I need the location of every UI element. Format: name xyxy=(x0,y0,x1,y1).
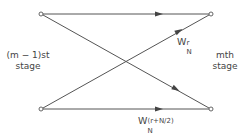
weight-lower-base: W xyxy=(138,115,147,126)
right-stage-line1: mth xyxy=(208,50,242,61)
left-stage-line1: (m − 1)st xyxy=(6,50,50,61)
arrow-icon xyxy=(155,107,163,112)
left-stage-label: (m − 1)st stage xyxy=(6,50,50,72)
weight-upper-base: W xyxy=(177,36,186,47)
weight-upper-label: WrN xyxy=(177,36,192,47)
weight-lower-superscript: (r+N/2) xyxy=(147,117,173,125)
right-stage-label: mth stage xyxy=(208,50,242,72)
node-out-top xyxy=(209,12,213,16)
weight-upper-superscript: r xyxy=(186,39,189,47)
weight-lower-label: W(r+N/2)N xyxy=(138,115,179,126)
node-out-bottom xyxy=(209,107,213,111)
node-in-bottom xyxy=(39,107,43,111)
arrow-icon xyxy=(155,12,163,17)
node-in-top xyxy=(39,12,43,16)
weight-lower-subscript: N xyxy=(147,127,152,135)
weight-upper-subscript: N xyxy=(186,48,191,56)
left-stage-line2: stage xyxy=(6,61,50,72)
right-stage-line2: stage xyxy=(208,61,242,72)
